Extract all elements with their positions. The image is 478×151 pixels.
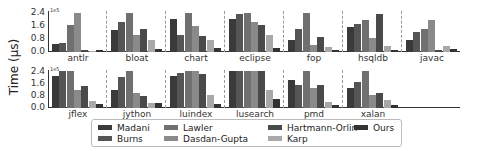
bar-dasdan-gupta	[133, 93, 140, 108]
bar-madani	[52, 76, 59, 108]
group-separator	[283, 70, 284, 108]
bar-group-antlr	[48, 11, 107, 52]
bar-group-jflex	[48, 70, 107, 108]
bar-burns	[59, 43, 66, 52]
group-label: hsqldb	[343, 53, 403, 63]
bar-dasdan-gupta	[74, 90, 81, 109]
bar-dasdan-gupta	[133, 35, 140, 52]
legend-swatch	[98, 125, 112, 130]
legend: Madani Burns Lawler Dasdan-Gupta Hartman…	[91, 119, 402, 147]
bar-group-fop	[284, 11, 343, 52]
bar-karp	[443, 46, 450, 52]
bar-lawler	[67, 25, 74, 52]
bar-karp	[207, 40, 214, 52]
group-separator	[224, 70, 225, 108]
group-label: antlr	[48, 53, 108, 63]
bar-lawler	[303, 71, 310, 108]
bar-lawler	[126, 71, 133, 108]
group-label: xalan	[343, 109, 403, 119]
bar-madani	[111, 30, 118, 52]
legend-item-karp: Karp	[268, 133, 308, 144]
bar-madani	[288, 40, 295, 53]
group-label: jython	[107, 109, 167, 119]
bar-madani	[229, 71, 236, 108]
legend-swatch	[268, 136, 282, 141]
bar-group-pmd	[284, 70, 343, 108]
chart-row-bottom: 1e5 2.4 1.6 0.8 0.0 jflexjythonluindexlu…	[48, 70, 460, 108]
y-tick: 1.6	[31, 79, 48, 88]
bar-ours	[332, 50, 339, 53]
bar-burns	[236, 71, 243, 108]
bar-burns	[118, 77, 125, 108]
bar-ours	[96, 50, 103, 52]
bar-ours	[273, 99, 280, 108]
bar-burns	[59, 71, 66, 108]
group-separator	[401, 11, 402, 52]
legend-swatch	[268, 125, 282, 130]
legend-item-dasdan-gupta: Dasdan-Gupta	[164, 133, 248, 144]
group-label: luindex	[166, 109, 226, 119]
group-label: javac	[402, 53, 462, 63]
y-tick: 0.0	[31, 47, 48, 56]
legend-swatch	[354, 125, 368, 130]
bar-hartmann-orlin	[376, 93, 383, 108]
bar-ours	[332, 105, 339, 108]
bar-karp	[266, 35, 273, 53]
bar-karp	[89, 101, 96, 108]
bar-ours	[273, 48, 280, 52]
bar-madani	[52, 44, 59, 52]
y-tick: 2.4	[31, 67, 48, 76]
bar-burns	[118, 22, 125, 52]
legend-item-madani: Madani	[98, 122, 150, 133]
group-separator	[106, 70, 107, 108]
bar-group-eclipse	[225, 11, 284, 52]
legend-item-hartmann-orlin: Hartmann-Orlin	[268, 122, 357, 133]
bar-burns	[236, 14, 243, 52]
bar-ours	[96, 104, 103, 108]
bar-burns	[295, 29, 302, 52]
bar-karp	[325, 47, 332, 52]
bar-karp	[384, 100, 391, 108]
bar-madani	[347, 88, 354, 108]
bar-hartmann-orlin	[199, 74, 206, 108]
bar-hartmann-orlin	[376, 14, 383, 52]
bar-lawler	[67, 71, 74, 108]
group-separator	[224, 11, 225, 52]
bar-madani	[111, 90, 118, 109]
bar-ours	[391, 50, 398, 53]
bar-dasdan-gupta	[428, 20, 435, 52]
bar-hartmann-orlin	[258, 71, 265, 108]
bar-madani	[406, 40, 413, 52]
bar-group-javac	[402, 11, 461, 52]
bar-hartmann-orlin	[435, 50, 442, 53]
bar-dasdan-gupta	[310, 45, 317, 53]
bar-hartmann-orlin	[81, 50, 88, 53]
y-tick: 2.4	[31, 8, 48, 17]
bar-ours	[450, 49, 457, 52]
bar-lawler	[362, 20, 369, 52]
bar-lawler	[362, 71, 369, 108]
bar-burns	[354, 24, 361, 52]
bar-hartmann-orlin	[140, 29, 147, 52]
bar-group-luindex	[166, 70, 225, 108]
group-label: eclipse	[225, 53, 285, 63]
bar-karp	[325, 102, 332, 108]
group-label: chart	[166, 53, 226, 63]
bar-madani	[347, 27, 354, 52]
bar-madani	[170, 19, 177, 52]
legend-item-lawler: Lawler	[164, 122, 213, 133]
bar-lawler	[244, 13, 251, 52]
bar-burns	[354, 82, 361, 108]
bar-group-bloat	[107, 11, 166, 52]
group-separator	[106, 11, 107, 52]
group-separator	[165, 11, 166, 52]
bar-group-jython	[107, 70, 166, 108]
bar-madani	[170, 76, 177, 108]
bar-group-lusearch	[225, 70, 284, 108]
bar-ours	[214, 104, 221, 108]
bar-dasdan-gupta	[192, 26, 199, 52]
y-axis-label: Time (μs)	[7, 39, 21, 95]
bar-burns	[295, 85, 302, 108]
y-tick: 1.6	[31, 21, 48, 30]
bar-hartmann-orlin	[317, 37, 324, 52]
